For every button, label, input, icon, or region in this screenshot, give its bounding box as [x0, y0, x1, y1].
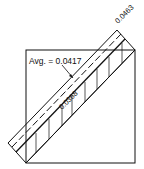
- upper-value-label: 0.0463: [113, 3, 136, 26]
- lower-value-label: 0.0368: [57, 89, 80, 112]
- avg-label: Avg. = 0.0417: [29, 56, 82, 66]
- avg-dashed-line: [12, 34, 121, 147]
- tolerance-band-diagram: Avg. = 0.0417 0.0463 0.0368: [0, 0, 144, 169]
- main-diagonal: [26, 50, 135, 163]
